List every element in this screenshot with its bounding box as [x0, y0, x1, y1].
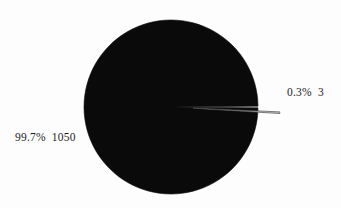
pie-chart-figure: 99.7% 1050 0.3% 3 — [0, 0, 341, 208]
pie-chart-canvas — [0, 0, 341, 208]
pie-slice-label-major: 99.7% 1050 — [15, 131, 76, 144]
pie-slice-label-minor: 0.3% 3 — [287, 86, 324, 99]
